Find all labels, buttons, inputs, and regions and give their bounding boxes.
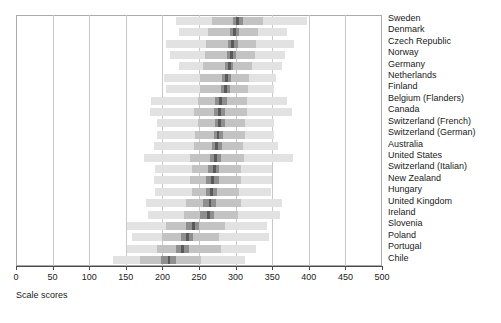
country-band-row	[16, 256, 382, 264]
country-band-row	[16, 85, 382, 93]
country-label: New Zealand	[388, 173, 441, 184]
country-label: United Kingdom	[388, 196, 452, 207]
band-mean-marker	[211, 176, 214, 184]
x-tick-100	[89, 266, 90, 270]
country-band-row	[16, 165, 382, 173]
band-mean-marker	[218, 108, 221, 116]
band-mean-marker	[224, 85, 227, 93]
band-mean-marker	[236, 17, 239, 25]
x-tick-350	[272, 266, 273, 270]
band-mean-marker	[217, 131, 220, 139]
band-mean-marker	[209, 199, 212, 207]
x-tick-300	[236, 266, 237, 270]
country-band-row	[16, 199, 382, 207]
x-tick-label-150: 150	[111, 272, 141, 282]
country-label: Australia	[388, 139, 423, 150]
band-mean-marker	[214, 154, 217, 162]
country-label: Czech Republic	[388, 36, 451, 47]
x-tick-label-400: 400	[294, 272, 324, 282]
x-axis-label: Scale scores	[16, 290, 68, 300]
country-label: Germany	[388, 59, 425, 70]
scale-scores-chart: 050100150200250300350400450500 Scale sco…	[0, 0, 501, 323]
band-mean-marker	[181, 245, 184, 253]
country-band-row	[16, 176, 382, 184]
country-label: Portugal	[388, 241, 422, 252]
country-label: Ireland	[388, 207, 416, 218]
country-label: Finland	[388, 81, 418, 92]
country-band-row	[16, 211, 382, 219]
x-tick-50	[53, 266, 54, 270]
x-tick-label-450: 450	[330, 272, 360, 282]
country-band-row	[16, 233, 382, 241]
x-tick-200	[162, 266, 163, 270]
band-mean-marker	[231, 40, 234, 48]
country-band-row	[16, 28, 382, 36]
x-tick-150	[126, 266, 127, 270]
x-tick-label-500: 500	[367, 272, 397, 282]
country-band-row	[16, 154, 382, 162]
country-band-row	[16, 97, 382, 105]
band-mean-marker	[233, 28, 236, 36]
country-band-row	[16, 62, 382, 70]
x-tick-label-100: 100	[74, 272, 104, 282]
band-mean-marker	[230, 51, 233, 59]
country-label: Canada	[388, 104, 420, 115]
country-band-row	[16, 142, 382, 150]
country-label: United States	[388, 150, 442, 161]
band-mean-marker	[192, 222, 195, 230]
country-label: Norway	[388, 47, 419, 58]
band-mean-marker	[228, 62, 231, 70]
country-label: Switzerland (French)	[388, 116, 471, 127]
band-mean-marker	[207, 211, 210, 219]
band-mean-marker	[225, 74, 228, 82]
country-band-row	[16, 188, 382, 196]
country-label: Belgium (Flanders)	[388, 93, 464, 104]
country-band-row	[16, 51, 382, 59]
country-label: Sweden	[388, 13, 421, 24]
country-band-row	[16, 119, 382, 127]
band-mean-marker	[215, 142, 218, 150]
band-mean-marker	[168, 256, 171, 264]
country-label: Netherlands	[388, 70, 437, 81]
country-band-row	[16, 108, 382, 116]
percentile-bands-layer	[16, 15, 382, 266]
country-label: Chile	[388, 253, 409, 264]
country-label: Switzerland (German)	[388, 127, 476, 138]
x-tick-400	[309, 266, 310, 270]
country-band-row	[16, 17, 382, 25]
country-band-row	[16, 222, 382, 230]
x-tick-label-50: 50	[38, 272, 68, 282]
x-tick-500	[382, 266, 383, 270]
band-mean-marker	[218, 119, 221, 127]
x-tick-label-350: 350	[257, 272, 287, 282]
country-band-row	[16, 131, 382, 139]
band-p25-p75	[157, 245, 221, 253]
country-label: Switzerland (Italian)	[388, 161, 467, 172]
x-tick-label-0: 0	[1, 272, 31, 282]
x-tick-450	[345, 266, 346, 270]
country-label: Hungary	[388, 184, 422, 195]
country-label: Denmark	[388, 24, 425, 35]
x-tick-250	[199, 266, 200, 270]
band-mean-marker	[213, 165, 216, 173]
x-tick-label-250: 250	[184, 272, 214, 282]
x-tick-0	[16, 266, 17, 270]
x-tick-label-200: 200	[147, 272, 177, 282]
country-band-row	[16, 245, 382, 253]
country-label: Slovenia	[388, 218, 423, 229]
country-band-row	[16, 74, 382, 82]
country-band-row	[16, 40, 382, 48]
band-mean-marker	[219, 97, 222, 105]
band-mean-marker	[186, 233, 189, 241]
country-label: Poland	[388, 230, 416, 241]
band-mean-marker	[210, 188, 213, 196]
x-tick-label-300: 300	[221, 272, 251, 282]
